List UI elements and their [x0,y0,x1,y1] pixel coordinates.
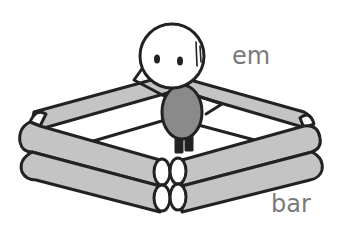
figure-label: em [232,44,270,68]
right-eye-icon [177,57,183,66]
figure-body [162,85,202,139]
enclosure-label: bar [271,192,311,216]
left-eye-icon [154,55,160,64]
figure-head [140,24,204,88]
log-ends [154,158,186,211]
